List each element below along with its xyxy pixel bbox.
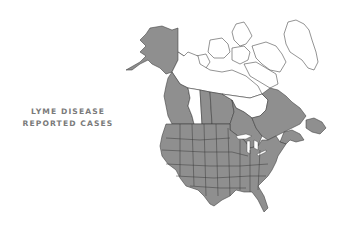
- region-newfoundland: [306, 118, 326, 134]
- lake-huron: [254, 140, 258, 150]
- region-arctic-islands-3: [232, 46, 250, 64]
- lake-michigan: [247, 141, 250, 154]
- region-greenland: [284, 20, 318, 70]
- region-arctic-islands-2: [208, 38, 230, 58]
- north-america-map: [0, 0, 343, 229]
- region-arctic-islands-1: [232, 22, 252, 46]
